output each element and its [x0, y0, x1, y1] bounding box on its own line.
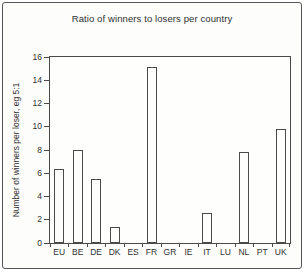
y-axis-tick: [44, 126, 50, 127]
y-tick-label: 12: [18, 98, 42, 109]
y-axis-tick: [44, 173, 50, 174]
y-tick-label: 8: [18, 145, 42, 156]
bar-be: [73, 150, 83, 243]
bar-fr: [147, 67, 157, 243]
y-tick-label: 14: [18, 75, 42, 86]
bar-nl: [239, 152, 249, 243]
x-category-label: GR: [161, 247, 179, 257]
chart-title: Ratio of winners to losers per country: [3, 13, 301, 24]
y-axis-tick: [44, 219, 50, 220]
y-tick-label: 0: [18, 238, 42, 249]
figure-frame: Ratio of winners to losers per country N…: [2, 2, 302, 269]
x-category-label: IE: [179, 247, 197, 257]
bar-dk: [110, 227, 120, 243]
x-category-label: PT: [253, 247, 271, 257]
x-category-label: DE: [87, 247, 105, 257]
bar-uk: [276, 129, 286, 243]
y-tick-label: 6: [18, 168, 42, 179]
y-axis-tick: [44, 150, 50, 151]
plot-area: 0246810121416EUBEDEDKESFRGRIEITLUNLPTUK: [49, 56, 291, 244]
x-category-label: LU: [216, 247, 234, 257]
y-axis-tick: [44, 103, 50, 104]
y-tick-label: 2: [18, 214, 42, 225]
y-axis-tick: [44, 196, 50, 197]
y-tick-label: 16: [18, 52, 42, 63]
x-category-label: EU: [50, 247, 68, 257]
y-axis-tick: [44, 80, 50, 81]
x-category-label: DK: [105, 247, 123, 257]
x-category-label: NL: [235, 247, 253, 257]
y-tick-label: 4: [18, 191, 42, 202]
x-category-label: FR: [142, 247, 160, 257]
bar-it: [202, 213, 212, 243]
bar-de: [91, 179, 101, 243]
y-axis-tick: [44, 57, 50, 58]
x-category-label: UK: [272, 247, 290, 257]
x-category-label: ES: [124, 247, 142, 257]
bar-eu: [54, 169, 64, 243]
x-category-label: BE: [68, 247, 86, 257]
y-tick-label: 10: [18, 121, 42, 132]
x-category-label: IT: [198, 247, 216, 257]
